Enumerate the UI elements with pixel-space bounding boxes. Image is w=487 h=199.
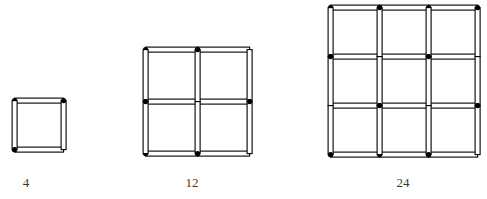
matchstick-body <box>429 152 478 157</box>
matchstick <box>143 99 148 154</box>
figure-count-label: 24 <box>373 176 433 189</box>
matchstick-head <box>61 98 66 103</box>
matchstick-figures-canvas: 41224 <box>0 0 487 199</box>
matchstick-figure <box>141 45 254 158</box>
matchstick <box>475 57 480 109</box>
matchstick-head <box>328 152 333 157</box>
matchstick <box>426 103 478 108</box>
matchstick <box>426 54 478 59</box>
matchstick-head <box>328 54 333 59</box>
matchstick <box>377 152 429 157</box>
matchstick-body <box>328 8 333 57</box>
matchstick-head <box>247 99 252 104</box>
matchstick-head <box>195 47 200 52</box>
matchstick <box>195 102 200 157</box>
matchstick <box>475 103 480 155</box>
matchstick-body <box>15 147 64 152</box>
matchstick-body <box>475 8 480 57</box>
matchstick <box>377 103 382 155</box>
matchstick-head <box>426 152 431 157</box>
matchstick <box>377 57 382 109</box>
matchstick-body <box>380 103 429 108</box>
matchstick-grid <box>10 96 68 154</box>
matchstick <box>12 98 64 103</box>
matchstick-head <box>143 99 148 104</box>
matchstick-head <box>426 54 431 59</box>
matchstick-body <box>429 54 478 59</box>
matchstick <box>328 152 380 157</box>
matchstick-head <box>475 5 480 10</box>
matchstick <box>328 54 380 59</box>
matchstick-body <box>328 106 333 155</box>
matchstick-body <box>380 54 429 59</box>
matchstick-body <box>247 102 252 154</box>
figure-count-label: 12 <box>162 176 222 189</box>
matchstick <box>195 47 250 52</box>
figure-count-label: 4 <box>0 176 56 189</box>
matchstick-body <box>195 102 200 154</box>
matchstick-body <box>475 106 480 155</box>
matchstick-body <box>331 54 380 59</box>
matchstick-body <box>331 152 380 157</box>
matchstick-figure <box>10 96 68 154</box>
matchstick-body <box>143 50 148 102</box>
matchstick <box>377 54 429 59</box>
matchstick <box>377 5 382 57</box>
matchstick <box>426 152 478 157</box>
matchstick <box>328 54 333 106</box>
matchstick-body <box>377 106 382 155</box>
matchstick-body <box>475 57 480 106</box>
matchstick-body <box>15 98 64 103</box>
matchstick <box>377 103 429 108</box>
matchstick-body <box>426 8 431 57</box>
matchstick <box>328 5 380 10</box>
matchstick-grid <box>141 45 254 158</box>
matchstick <box>143 50 148 105</box>
matchstick-body <box>377 57 382 106</box>
matchstick-body <box>146 47 198 52</box>
matchstick <box>143 47 198 52</box>
matchstick-figure <box>326 3 482 159</box>
matchstick <box>328 106 333 158</box>
matchstick <box>61 98 66 150</box>
matchstick-head <box>195 151 200 156</box>
matchstick-body <box>195 50 200 102</box>
matchstick-body <box>426 106 431 155</box>
matchstick-body <box>198 99 250 104</box>
matchstick-body <box>331 103 380 108</box>
matchstick-head <box>377 5 382 10</box>
matchstick-body <box>12 101 17 150</box>
matchstick <box>426 8 431 60</box>
matchstick-body <box>146 151 198 156</box>
matchstick <box>195 99 250 104</box>
matchstick-body <box>61 101 66 150</box>
matchstick <box>143 151 198 156</box>
matchstick-body <box>146 99 198 104</box>
matchstick-body <box>426 57 431 106</box>
matchstick-body <box>328 57 333 106</box>
matchstick <box>377 5 429 10</box>
matchstick-grid <box>326 3 482 159</box>
matchstick <box>328 8 333 60</box>
matchstick <box>475 5 480 57</box>
matchstick <box>247 50 252 105</box>
matchstick-body <box>429 5 478 10</box>
matchstick <box>426 106 431 158</box>
matchstick <box>328 103 380 108</box>
matchstick-head <box>475 103 480 108</box>
matchstick-body <box>380 152 429 157</box>
matchstick-body <box>247 50 252 102</box>
matchstick-body <box>198 47 250 52</box>
matchstick <box>195 47 200 102</box>
matchstick-head <box>377 103 382 108</box>
matchstick-body <box>143 102 148 154</box>
matchstick <box>195 151 250 156</box>
matchstick <box>247 99 252 154</box>
matchstick-body <box>377 8 382 57</box>
matchstick-body <box>380 5 429 10</box>
matchstick <box>12 101 17 153</box>
matchstick <box>143 99 198 104</box>
matchstick <box>426 5 478 10</box>
matchstick-body <box>331 5 380 10</box>
matchstick-head <box>12 147 17 152</box>
